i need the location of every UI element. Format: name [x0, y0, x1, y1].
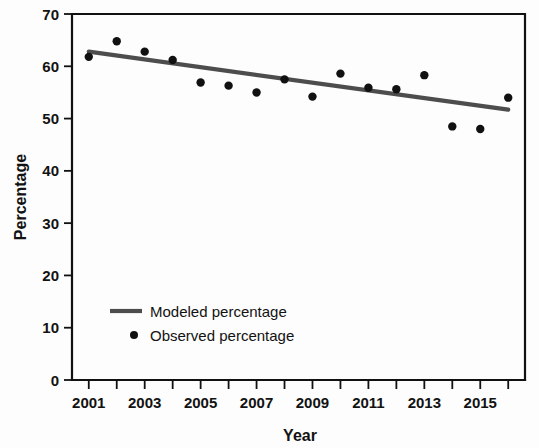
- y-tick-label: 0: [51, 372, 59, 389]
- observed-data-point: [476, 125, 484, 133]
- legend-label: Observed percentage: [150, 327, 294, 344]
- x-tick-label: 2013: [408, 394, 441, 411]
- chart-figure: 010203040506070 200120032005200720092011…: [0, 0, 539, 448]
- y-tick-label: 70: [42, 6, 59, 23]
- legend-dot-swatch: [130, 331, 138, 339]
- x-axis-title: Year: [283, 427, 317, 444]
- x-tick-label: 2007: [240, 394, 273, 411]
- x-tick-label: 2001: [72, 394, 105, 411]
- observed-data-point: [336, 69, 344, 77]
- observed-data-point: [504, 93, 512, 101]
- y-tick-label: 50: [42, 110, 59, 127]
- legend-label: Modeled percentage: [150, 303, 287, 320]
- observed-data-point: [196, 78, 204, 86]
- y-tick-label: 40: [42, 162, 59, 179]
- observed-data-point: [168, 56, 176, 64]
- y-tick-label: 30: [42, 215, 59, 232]
- y-axis-ticks: 010203040506070: [42, 6, 72, 389]
- y-tick-label: 60: [42, 58, 59, 75]
- y-tick-label: 20: [42, 267, 59, 284]
- x-tick-label: 2015: [464, 394, 497, 411]
- y-axis-title: Percentage: [12, 154, 29, 240]
- observed-percentage-points: [85, 37, 513, 133]
- observed-data-point: [308, 92, 316, 100]
- observed-data-point: [113, 37, 121, 45]
- chart-axes: [72, 14, 525, 380]
- x-tick-label: 2009: [296, 394, 329, 411]
- modeled-percentage-line: [89, 52, 508, 110]
- observed-data-point: [420, 71, 428, 79]
- observed-data-point: [392, 85, 400, 93]
- x-tick-label: 2011: [352, 394, 385, 411]
- observed-data-point: [85, 53, 93, 61]
- observed-data-point: [448, 122, 456, 130]
- x-tick-label: 2005: [184, 394, 217, 411]
- y-tick-label: 10: [42, 319, 59, 336]
- x-tick-label: 2003: [128, 394, 161, 411]
- x-axis-ticks: 20012003200520072009201120132015: [72, 380, 508, 411]
- observed-data-point: [224, 81, 232, 89]
- modeled-trend-line: [89, 52, 508, 110]
- observed-data-point: [280, 75, 288, 83]
- chart-legend: Modeled percentageObserved percentage: [110, 303, 294, 344]
- observed-data-point: [252, 88, 260, 96]
- observed-data-point: [364, 84, 372, 92]
- observed-data-point: [141, 47, 149, 55]
- line-chart: 010203040506070 200120032005200720092011…: [0, 0, 539, 448]
